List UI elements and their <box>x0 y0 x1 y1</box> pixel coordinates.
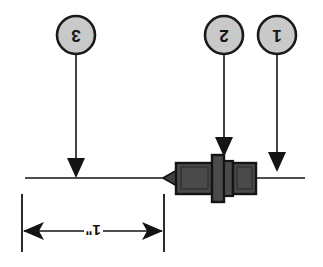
technical-diagram: 3 2 1 <box>0 0 323 267</box>
dimension-label: 1" <box>85 222 100 239</box>
connector-mid-collar <box>224 161 233 196</box>
connector-installation-figure: 3 2 1 <box>0 0 323 267</box>
callout-3-label: 3 <box>71 26 80 45</box>
callout-1-label: 1 <box>272 26 281 45</box>
connector-coupling-flange <box>212 155 224 202</box>
fiber-optic-connector <box>163 155 256 202</box>
callout-2-label: 2 <box>219 26 228 45</box>
